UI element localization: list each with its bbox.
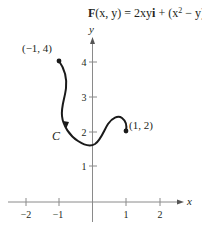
vector-field-formula: F(x, y) = 2xyi + (x2 − y)j: [88, 6, 202, 20]
y-tick-label: 4: [82, 57, 87, 68]
vector-field-line-integral-figure: F(x, y) = 2xyi + (x2 − y)j x −2 −1 1 2 y…: [0, 0, 202, 225]
x-axis-arrow-icon: [177, 200, 184, 205]
curve-label: C: [52, 129, 61, 143]
start-point-label: (−1, 4): [22, 42, 52, 55]
x-tick-label: −1: [53, 209, 64, 220]
y-tick-label: 1: [82, 161, 87, 172]
x-tick-label: −2: [21, 209, 32, 220]
y-tick-label: 3: [82, 92, 87, 103]
y-axis-arrow-icon: [90, 37, 95, 44]
y-tick-label: 2: [82, 127, 87, 138]
start-point: [57, 59, 62, 64]
y-axis-label: y: [88, 23, 94, 35]
y-axis: y 4 3 2 1: [82, 23, 98, 222]
x-tick-label: 2: [158, 209, 163, 220]
end-point-label: (1, 2): [129, 119, 153, 132]
x-tick-label: 1: [124, 209, 129, 220]
x-axis: x −2 −1 1 2: [8, 195, 192, 220]
x-axis-label: x: [186, 195, 192, 207]
end-point: [124, 129, 129, 134]
